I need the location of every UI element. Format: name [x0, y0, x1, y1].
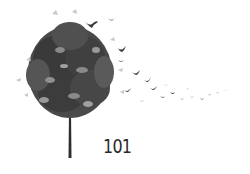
tree-trunk	[69, 112, 72, 158]
caption-number: 101	[103, 134, 131, 158]
tree-canopy	[26, 22, 114, 118]
illustration-canvas: 101	[0, 0, 250, 174]
